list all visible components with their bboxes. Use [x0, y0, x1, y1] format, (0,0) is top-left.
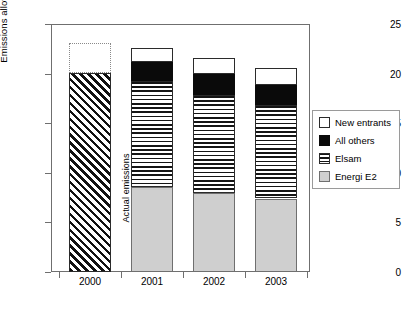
bar-segment-2002-new-entrants	[193, 58, 235, 75]
chart-legend: New entrants All others Elsam Energi E2	[312, 110, 400, 189]
bar-2001	[131, 48, 173, 272]
bar-2002	[193, 58, 235, 272]
actual-emissions-label: Actual emissions	[121, 152, 131, 223]
legend-item-energi-e2: Energi E2	[319, 171, 394, 182]
bar-segment-2001-new-entrants	[131, 48, 173, 62]
legend-item-elsam: Elsam	[319, 153, 394, 164]
bar-2000	[69, 43, 111, 272]
x-tick-label-2001: 2001	[122, 276, 182, 287]
bar-segment-2003-all-others	[255, 85, 297, 105]
bar-segment-2002-elsam	[193, 95, 235, 193]
legend-label-energi-e2: Energi E2	[335, 171, 377, 182]
legend-swatch-elsam-icon	[319, 153, 330, 164]
bar-2003	[255, 68, 297, 273]
legend-swatch-all-others-icon	[319, 135, 330, 146]
x-tick-label-2003: 2003	[246, 276, 306, 287]
bar-segment-2000-actual-emissions	[69, 73, 111, 272]
legend-item-new-entrants: New entrants	[319, 117, 394, 128]
legend-item-all-others: All others	[319, 135, 394, 146]
bar-segment-2003-energi-e2	[255, 199, 297, 273]
bar-segment-2003-new-entrants	[255, 68, 297, 86]
bar-segment-2002-all-others	[193, 74, 235, 95]
y-tick-label-5: 5	[362, 217, 408, 228]
bar-segment-2000-allowance-outline	[69, 43, 111, 73]
legend-swatch-new-entrants-icon	[319, 117, 330, 128]
legend-label-all-others: All others	[335, 135, 375, 146]
y-tick-label-25: 25	[362, 19, 408, 30]
legend-swatch-energi-e2-icon	[319, 171, 330, 182]
y-axis-title-text: Emissions allowances (MtCO	[0, 0, 9, 63]
x-tick-label-2002: 2002	[184, 276, 244, 287]
chart-figure: Emissions allowances (MtCO2) 25 20 15 10…	[0, 0, 408, 315]
y-tick-label-0: 0	[362, 267, 408, 278]
y-tick-mark-0	[45, 272, 51, 273]
y-axis-title: Emissions allowances (MtCO2)	[0, 0, 9, 76]
bar-segment-2003-elsam	[255, 105, 297, 198]
bar-segment-2001-elsam	[131, 81, 173, 186]
x-tick-mark-end	[307, 272, 308, 278]
legend-label-elsam: Elsam	[335, 153, 361, 164]
y-tick-label-20: 20	[362, 68, 408, 79]
bar-segment-2001-energi-e2	[131, 187, 173, 272]
bar-segment-2001-all-others	[131, 62, 173, 82]
legend-label-new-entrants: New entrants	[335, 117, 391, 128]
x-tick-label-2000: 2000	[60, 276, 120, 287]
bar-segment-2002-energi-e2	[193, 193, 235, 272]
